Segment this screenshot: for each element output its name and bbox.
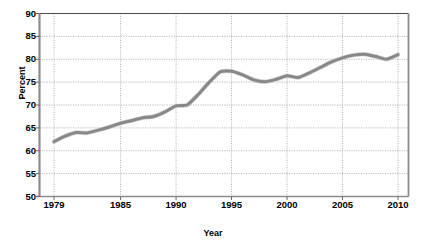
data-line <box>54 54 398 141</box>
plot-frame <box>36 14 409 201</box>
chart-container: Percent Year 505560657075808590 19791985… <box>0 0 426 250</box>
data-series-line <box>54 54 398 141</box>
plot-area <box>0 0 426 250</box>
grid-lines <box>40 14 409 197</box>
